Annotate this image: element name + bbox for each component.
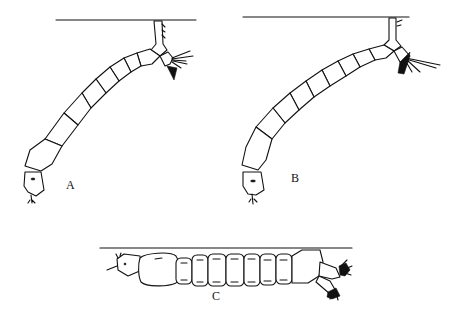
panel-c-drawing [100,248,352,300]
head-b [243,172,264,195]
eye-b [251,180,256,182]
panel-label-b: B [291,172,299,184]
antenna-a [28,195,35,203]
thorax-a [25,139,62,171]
eye-a [31,178,35,180]
anal-papillae-a [172,51,193,68]
segment-c-6 [260,254,276,285]
panel-a-drawing [24,20,196,203]
anal-papillae-b [405,58,440,72]
panel-b-drawing [242,17,440,204]
panel-label-a: A [66,179,75,191]
panel-label-c: C [212,290,220,302]
siphon-c [319,262,340,279]
head-a [24,172,44,196]
eye-c [124,263,126,265]
figure-drawing [0,0,465,321]
brush-a [167,66,177,80]
larva-figure: A B C [0,0,465,321]
